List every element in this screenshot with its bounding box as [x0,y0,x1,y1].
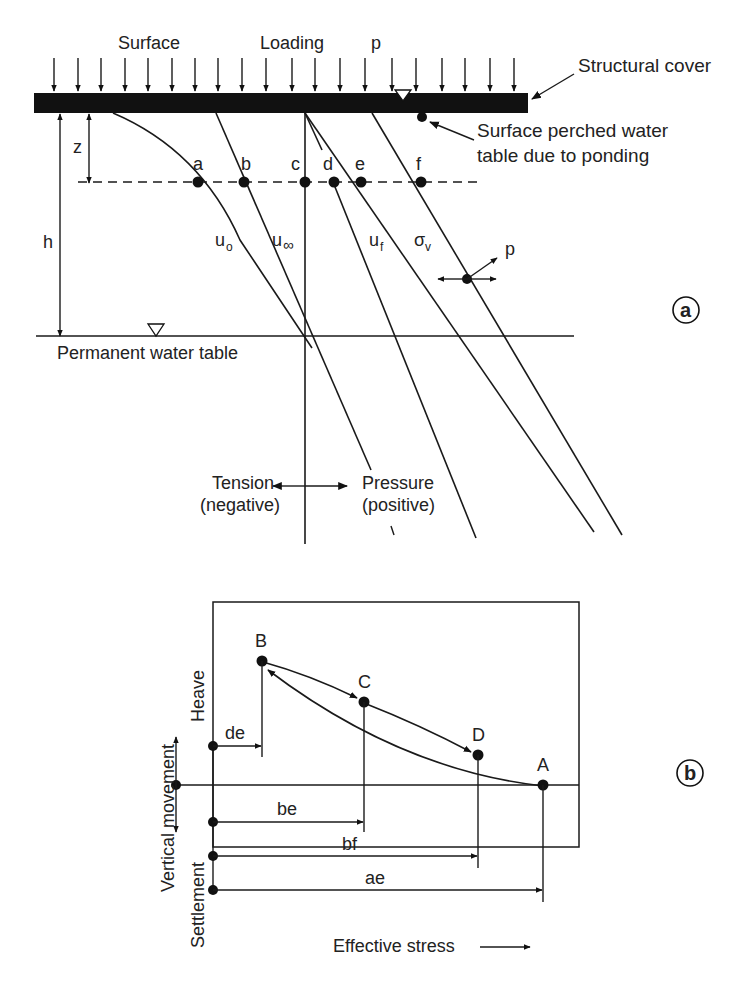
pressure-label-line2: (positive) [362,495,435,515]
panel-a-badge-label: a [680,299,692,321]
point-B-label: B [255,631,267,651]
p-offset-indicator: p [438,239,515,284]
panel-b-frame [213,602,579,847]
water-table-symbol-icon [148,324,164,336]
point-e [356,177,367,188]
x-axis-title: Effective stress [333,936,455,956]
path-c-to-d [364,703,471,752]
uf-label: u f [369,230,384,254]
z-label: z [73,137,82,157]
uf-top-segment [305,113,322,150]
sigma-v-label: σ v [414,230,431,254]
diagram-canvas: Surface Loading p [0,0,744,983]
point-c-label: c [291,154,300,174]
tension-label-line1: Tension [212,473,274,493]
heave-label: Heave [188,670,208,722]
panel-b-badge-label: b [684,762,696,784]
point-b [239,177,250,188]
point-c [300,177,311,188]
y-axis-title: Vertical movement [158,744,178,892]
point-d [329,177,340,188]
point-e-label: e [355,154,365,174]
point-A-label: A [537,755,549,775]
bf-label: bf [342,834,358,854]
panel-b: Vertical movement Heave Settlement B C D… [158,602,703,956]
sigma-v-label-main: σ [414,230,425,250]
surface-load-arrows [54,58,514,91]
u0-label-sub: o [226,240,233,254]
perched-water-label-line2: table due to ponding [477,145,649,166]
point-d-label: d [323,154,333,174]
uinf-label-main: u [272,230,282,250]
surface-label: Surface [118,33,180,53]
point-f [416,177,427,188]
point-C-label: C [358,672,371,692]
uf-label-main: u [369,230,379,250]
uinf-label: u ∞ [272,230,294,253]
sigma-v-label-sub: v [425,240,431,254]
settlement-label: Settlement [188,862,208,948]
pressure-label-line1: Pressure [362,473,434,493]
small-tick-mark [391,526,394,535]
ae-label: ae [365,868,385,888]
u0-curve [113,113,312,348]
sigma-v-line [372,113,622,535]
tension-label-line2: (negative) [200,495,280,515]
perched-water-point [417,112,427,122]
uinf-label-sub: ∞ [283,236,294,253]
e-line [305,113,594,532]
de-label: de [225,723,245,743]
permanent-water-table-label: Permanent water table [57,343,238,363]
uf-label-sub: f [380,240,384,254]
point-a-label: a [193,154,204,174]
point-D-label: D [472,725,485,745]
perched-water-label-line1: Surface perched water [477,120,669,141]
point-a [193,177,204,188]
panel-a: Surface Loading p [34,33,712,544]
offset-p-label: p [505,239,515,259]
u0-label-main: u [215,230,225,250]
point-f-label: f [416,154,422,174]
structural-cover-slab [34,93,528,113]
point-b-label: b [241,154,251,174]
h-label: h [43,232,53,252]
loading-label: Loading [260,33,324,53]
u0-label: u o [215,230,233,254]
be-label: be [277,799,297,819]
load-p-label: p [371,33,381,53]
structural-cover-label: Structural cover [578,55,712,76]
path-b-to-c [263,662,357,698]
path-a-to-b [268,670,543,786]
